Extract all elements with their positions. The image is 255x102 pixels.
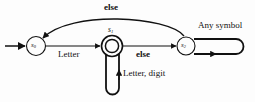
edge-label-letter-digit: Letter, digit bbox=[123, 69, 165, 78]
state-label-s1-sub: 1 bbox=[111, 29, 113, 34]
state-label-s2-sub: 2 bbox=[184, 44, 186, 49]
edge-label-else-top: else bbox=[104, 3, 118, 12]
fsm-diagram-canvas: s0 s1 s2 else Letter else Letter, digit … bbox=[0, 0, 255, 102]
self-loop-s2 bbox=[194, 39, 244, 54]
state-s2 bbox=[177, 37, 195, 55]
state-label-s0-sub: 0 bbox=[34, 44, 36, 49]
state-s0 bbox=[27, 37, 46, 56]
edge-label-any-symbol: Any symbol bbox=[198, 21, 242, 30]
state-label-s1: s1 bbox=[108, 26, 113, 35]
state-label-s2: s2 bbox=[181, 42, 186, 49]
state-label-s0: s0 bbox=[31, 42, 36, 49]
self-loop-s1 bbox=[106, 54, 119, 95]
fsm-graphics bbox=[0, 0, 255, 102]
edge-label-else-mid: else bbox=[136, 50, 150, 59]
edge-label-letter: Letter bbox=[58, 50, 80, 59]
state-s1-inner bbox=[105, 39, 118, 52]
